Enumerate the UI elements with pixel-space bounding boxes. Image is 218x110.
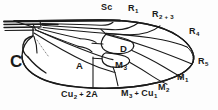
label-r5: R5 <box>198 57 208 66</box>
label-r1: R1 <box>128 4 138 13</box>
label-cell-d: D <box>120 44 127 54</box>
wing-venation-figure: Sc R1 R2 + 3 R4 R5 M1 M2 M3 + Cu1 Cu2 + … <box>0 0 218 110</box>
label-m1: M1 <box>177 73 188 82</box>
label-cu2-2a: Cu2 + 2A <box>61 90 98 99</box>
label-cell-m3: M3 <box>115 60 127 70</box>
label-sc: Sc <box>101 3 112 12</box>
crossvein-m-cu <box>93 58 102 59</box>
label-r4: R4 <box>189 27 199 36</box>
label-m3-cu1: M3 + Cu1 <box>121 89 157 98</box>
label-r2-3: R2 + 3 <box>152 10 173 19</box>
label-cell-a: A <box>76 61 83 71</box>
label-cell-c: C <box>10 53 22 70</box>
wing-diagram-svg <box>0 0 218 110</box>
label-m2: M2 <box>158 83 169 92</box>
